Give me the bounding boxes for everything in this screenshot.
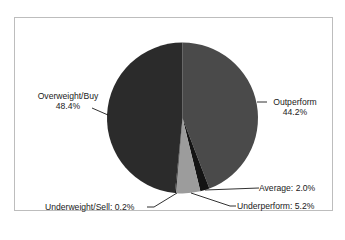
pie-slices	[107, 42, 258, 193]
label-underweight-sell: Underweight/Sell: 0.2%	[45, 202, 134, 212]
leader-line-average	[205, 188, 259, 190]
label-overweight-name: Overweight/Buy	[30, 91, 106, 101]
leader-line-underperform	[191, 193, 236, 206]
label-outperform-pct: 44.2%	[266, 107, 324, 117]
label-outperform: Outperform 44.2%	[266, 97, 324, 117]
leader-line-underweight	[147, 193, 177, 207]
label-overweight-buy: Overweight/Buy 48.4%	[30, 91, 106, 111]
label-outperform-name: Outperform	[266, 97, 324, 107]
label-overweight-pct: 48.4%	[30, 101, 106, 111]
label-average: Average: 2.0%	[259, 183, 315, 193]
label-underperform: Underperform: 5.2%	[237, 201, 314, 211]
pie-slice-overweight-buy	[107, 42, 183, 193]
